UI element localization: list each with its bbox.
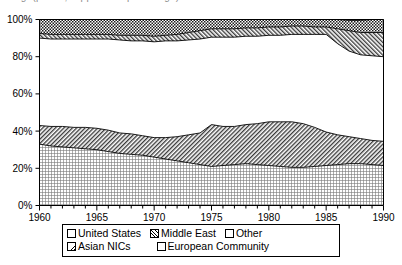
x-tick-label: 1980: [258, 212, 281, 223]
legend-swatch-icon-other: [225, 229, 234, 238]
chart-area-bands: [40, 20, 384, 206]
legend-label-middle-east: Middle East: [161, 228, 216, 239]
y-tick-label: 20%: [12, 163, 32, 174]
legend-label-european-community: European Community: [168, 241, 270, 252]
y-tick-label: 60%: [12, 88, 32, 99]
x-tick-label: 1985: [315, 212, 338, 223]
legend-label-other: Other: [236, 228, 262, 239]
legend-label-united-states: United States: [78, 228, 141, 239]
y-tick-label: 40%: [12, 126, 32, 137]
x-tick-label: 1965: [86, 212, 109, 223]
legend-row-2: Asian NICs European Community: [67, 240, 335, 253]
legend-swatch-icon-european-community: [157, 242, 166, 251]
y-tick-label: 0%: [18, 200, 33, 211]
legend-other: Other: [225, 228, 262, 239]
legend-european-community: European Community: [157, 241, 270, 252]
x-tick-label: 1960: [28, 212, 51, 223]
legend-swatch-icon-asian-nics: [67, 242, 76, 251]
x-tick-label: 1975: [200, 212, 223, 223]
y-tick-label: 100%: [7, 14, 33, 25]
legend-swatch-icon-middle-east: [150, 229, 159, 238]
chart-y-tick-labels: 0%20%40%60%80%100%: [7, 14, 33, 211]
legend-middle-east: Middle East: [150, 228, 216, 239]
chart-x-tick-labels: 1960196519701975198019851990: [28, 212, 395, 223]
chart-legend: United States Middle East Other Asian NI…: [62, 224, 340, 257]
legend-united-states: United States: [67, 228, 141, 239]
legend-row-1: United States Middle East Other: [67, 227, 335, 240]
legend-asian-nics: Asian NICs: [67, 241, 131, 252]
y-tick-label: 80%: [12, 51, 32, 62]
x-tick-label: 1990: [372, 212, 395, 223]
legend-label-asian-nics: Asian NICs: [78, 241, 131, 252]
x-tick-label: 1970: [143, 212, 166, 223]
legend-swatch-icon-united-states: [67, 229, 76, 238]
stacked-area-chart: Fig. (partial, clipped at top of image): [0, 0, 402, 265]
